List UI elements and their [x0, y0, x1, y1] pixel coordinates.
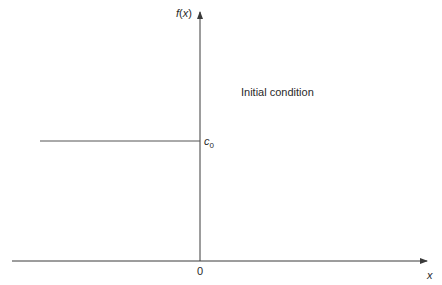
y-axis-label-close: )	[188, 7, 192, 19]
annotation-initial-condition: Initial condition	[241, 86, 314, 98]
x-axis-label: x	[427, 269, 433, 281]
c0-label-subscript: 0	[210, 141, 214, 150]
y-axis-label: f(x)	[176, 7, 192, 19]
c0-label: c0	[204, 135, 214, 150]
plot-area	[0, 0, 442, 285]
origin-tick-label: 0	[197, 265, 203, 277]
